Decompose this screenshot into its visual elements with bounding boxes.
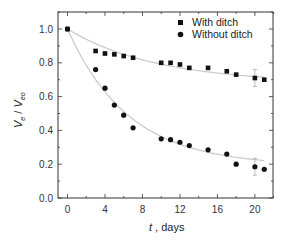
y-tick-label: 1.0: [39, 24, 53, 35]
y-tick-label: 0.6: [39, 91, 53, 102]
data-point-square: [168, 61, 173, 66]
data-point-circle: [112, 102, 117, 107]
legend: With ditch Without ditch: [178, 16, 253, 40]
x-axis-title: t , days: [149, 221, 185, 233]
data-point-circle: [130, 125, 135, 130]
data-point-square: [131, 55, 136, 60]
data-point-circle: [205, 147, 210, 152]
data-point-square: [234, 72, 239, 77]
data-point-square: [112, 52, 117, 57]
y-tick-label: 0.0: [39, 193, 53, 204]
data-point-circle: [65, 26, 70, 31]
data-point-circle: [187, 143, 192, 148]
y-tick-label: 0.4: [39, 125, 53, 136]
x-tick-label: 4: [102, 204, 108, 215]
data-point-circle: [159, 136, 164, 141]
legend-label-without-ditch: Without ditch: [192, 28, 253, 40]
data-point-square: [262, 77, 267, 82]
data-point-circle: [252, 164, 257, 169]
data-point-square: [121, 54, 126, 59]
data-point-square: [224, 69, 229, 74]
x-tick-label: 8: [140, 204, 146, 215]
y-tick-label: 0.2: [39, 159, 53, 170]
legend-label-with-ditch: With ditch: [192, 16, 238, 28]
data-point-square: [178, 62, 183, 67]
x-axis-title-unit: , days: [152, 221, 185, 233]
data-point-square: [253, 76, 258, 81]
y-tick-label: 0.8: [39, 57, 53, 68]
y-axis-title: Ve / Veo: [12, 92, 26, 128]
data-point-circle: [93, 67, 98, 72]
data-point-circle: [177, 140, 182, 145]
legend-marker-square-icon: [178, 20, 183, 25]
data-point-square: [159, 61, 164, 66]
x-tick-label: 12: [174, 204, 186, 215]
data-point-circle: [262, 167, 267, 172]
data-point-square: [206, 66, 211, 71]
chart: 0481216200.00.20.40.60.81.0 With ditch W…: [0, 0, 286, 245]
x-tick-label: 16: [212, 204, 224, 215]
x-tick-label: 20: [249, 204, 261, 215]
data-point-circle: [168, 137, 173, 142]
data-point-circle: [102, 86, 107, 91]
data-point-square: [103, 51, 108, 56]
data-point-circle: [234, 162, 239, 167]
data-point-circle: [224, 151, 229, 156]
plot-area: [65, 26, 267, 175]
legend-marker-circle-icon: [178, 32, 184, 38]
data-point-circle: [121, 113, 126, 118]
data-point-square: [187, 66, 192, 71]
y-title-slash: /: [12, 108, 24, 117]
y-title-sub2: eo: [19, 92, 26, 100]
x-tick-label: 0: [65, 204, 71, 215]
data-point-square: [93, 49, 98, 54]
